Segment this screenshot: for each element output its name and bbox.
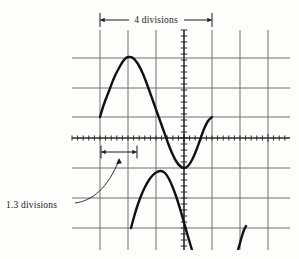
top-measure-label: 4 divisions — [134, 15, 178, 25]
graph-canvas: 4 divisions 1.3 divisions — [0, 0, 299, 259]
left-measure-leader-arrow — [116, 158, 122, 164]
left-measure-leader-line — [75, 160, 119, 203]
left-measure-label: 1.3 divisions — [6, 200, 57, 210]
figure-root: 4 divisions 1.3 divisions — [0, 0, 299, 259]
left-measure-arrow-end — [132, 150, 136, 155]
waveform-trace-third-waveform-fragment — [238, 226, 246, 250]
left-measure-arrow-start — [102, 150, 106, 155]
top-measure-arrow-right — [207, 18, 211, 23]
top-measure-arrow-left — [101, 18, 105, 23]
waveform-traces — [100, 57, 246, 250]
